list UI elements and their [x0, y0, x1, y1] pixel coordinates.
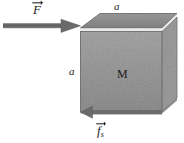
dimension-top-label: a — [114, 1, 120, 12]
figure-canvas — [0, 0, 184, 143]
block-right-face — [162, 17, 177, 112]
friction-force-label: fs — [97, 124, 104, 139]
force-symbol-text: F — [33, 2, 41, 17]
applied-force-arrow — [3, 19, 81, 32]
physics-figure-block-friction: F fs a a M — [0, 0, 184, 143]
dimension-left-label: a — [69, 66, 75, 77]
mass-label: M — [117, 68, 128, 80]
friction-vector-symbol: fs — [97, 124, 104, 139]
force-vector-symbol: F — [33, 3, 41, 16]
friction-subscript-text: s — [101, 130, 104, 139]
block-top-face — [81, 14, 178, 29]
applied-force-label: F — [33, 3, 41, 16]
